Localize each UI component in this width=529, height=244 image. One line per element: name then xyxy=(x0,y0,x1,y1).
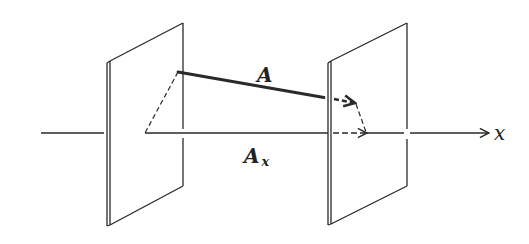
vector-A xyxy=(178,72,324,98)
vector-projection-diagram: A Ax x xyxy=(0,0,529,244)
vector-A-label: A xyxy=(255,63,273,87)
right-projection-dashed-line xyxy=(356,104,366,132)
component-Ax-letter: A xyxy=(242,144,260,168)
x-axis-label: x xyxy=(494,121,505,145)
vector-A-tip-dashed xyxy=(334,99,355,103)
left-plane xyxy=(107,23,183,226)
component-Ax-subscript: x xyxy=(261,154,270,169)
right-plane xyxy=(328,23,407,225)
component-Ax-label: Ax xyxy=(242,144,270,169)
